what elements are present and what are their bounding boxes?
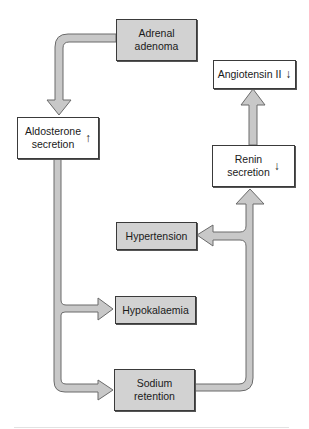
arrow-renin-to-angiotensin <box>241 89 265 145</box>
renin-line2: secretion <box>227 166 270 179</box>
node-sodium-retention: Sodium retention <box>114 369 195 411</box>
node-hypertension: Hypertension <box>116 222 197 250</box>
aldosterone-line2: secretion <box>32 138 75 151</box>
arrow-aldosterone-to-hypokalaemia <box>54 159 113 316</box>
up-arrow-icon: ↑ <box>85 132 91 145</box>
node-angiotensin-ii: Angiotensin II ↓ <box>213 60 296 89</box>
node-aldosterone-secretion: Aldosterone secretion ↑ <box>17 117 99 159</box>
sodium-line2: retention <box>134 390 175 403</box>
arrow-aldosterone-trunk <box>54 159 113 400</box>
down-arrow-icon: ↓ <box>285 68 291 81</box>
sodium-line1: Sodium <box>137 377 173 390</box>
bottom-divider <box>14 427 289 428</box>
adrenal-adenoma-line2: adenoma <box>135 40 179 53</box>
arrow-sodium-to-renin <box>194 189 264 391</box>
node-hypokalaemia: Hypokalaemia <box>115 296 196 324</box>
renin-line1: Renin <box>235 153 262 166</box>
hypokalaemia-label: Hypokalaemia <box>122 304 189 317</box>
arrow-adenoma-to-aldosterone <box>47 34 116 115</box>
down-arrow-icon: ↓ <box>274 160 280 173</box>
aldosterone-line1: Aldosterone <box>25 125 81 138</box>
node-adrenal-adenoma: Adrenal adenoma <box>116 19 197 61</box>
adrenal-adenoma-line1: Adrenal <box>138 27 174 40</box>
angiotensin-label: Angiotensin II <box>218 68 282 81</box>
hypertension-label: Hypertension <box>126 230 188 243</box>
node-renin-secretion: Renin secretion ↓ <box>212 145 295 187</box>
